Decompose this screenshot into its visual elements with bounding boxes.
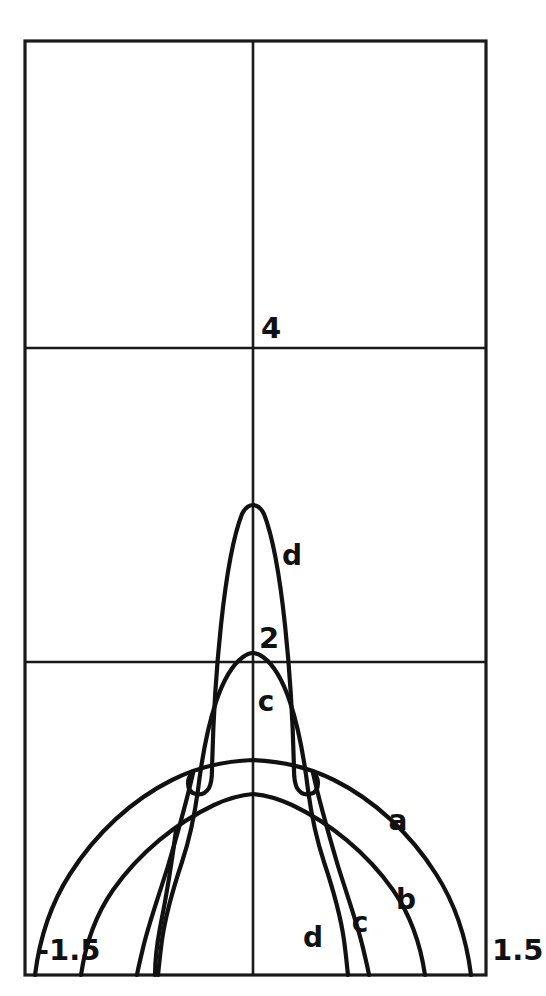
gridline-label-4: 4 <box>261 311 281 345</box>
contour-label-a: a <box>389 804 408 837</box>
contour-label-c-upper: c <box>258 685 275 718</box>
contour-label-c-lower: c <box>352 906 369 939</box>
x-axis-left-label: -1.5 <box>37 933 100 967</box>
contour-label-d-lower: d <box>303 921 323 954</box>
contour-figure: 4 2 -1.5 1.5 a b c c d d <box>0 0 546 996</box>
contour-plot-svg: 4 2 -1.5 1.5 a b c c d d <box>0 0 546 996</box>
x-axis-right-label: 1.5 <box>492 933 543 967</box>
contour-label-b: b <box>396 883 416 916</box>
contour-label-d-upper: d <box>282 539 302 572</box>
contour-curve-d-lower-left <box>137 773 193 975</box>
gridline-label-2: 2 <box>259 621 279 655</box>
plot-frame <box>25 41 486 975</box>
